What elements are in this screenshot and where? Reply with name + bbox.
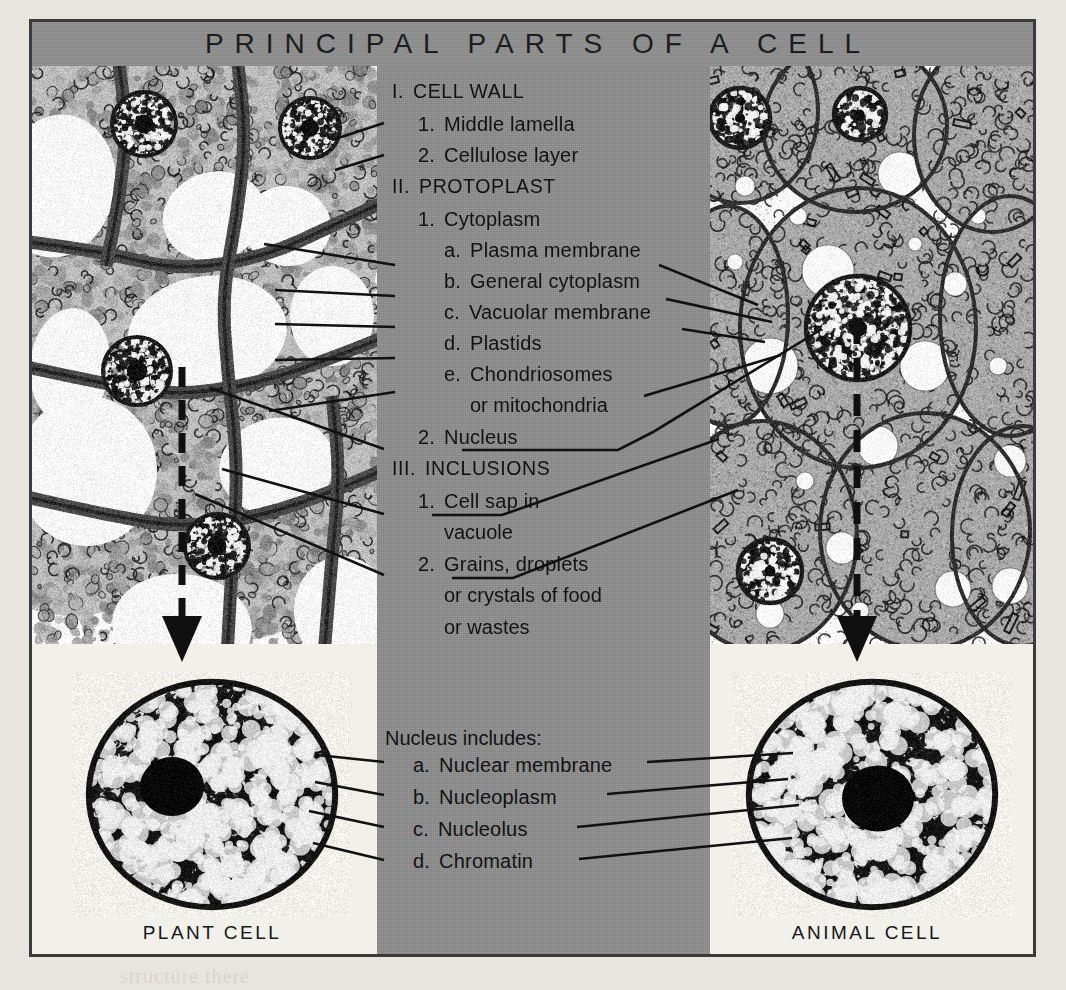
cell-diagram-figure: PRINCIPAL PARTS OF A CELL: [29, 19, 1036, 957]
nucleus-item-nucleolus: c.Nucleolus: [379, 818, 719, 850]
nucleus-item-chromatin: d.Chromatin: [379, 850, 719, 882]
outline-label: CELL WALL: [413, 80, 524, 102]
title-banner: PRINCIPAL PARTS OF A CELL: [32, 22, 1033, 66]
outline-item-inclusions: III.INCLUSIONS: [384, 457, 714, 488]
outline-item-mitochondria-cont: or mitochondria: [384, 394, 714, 426]
outline-label: or wastes: [444, 616, 530, 638]
outline-label: Nucleus: [444, 426, 518, 448]
outline-label: Vacuolar membrane: [469, 301, 651, 323]
outline-marker: a.: [444, 239, 461, 261]
nucleus-item-marker: a.: [413, 754, 430, 776]
nucleus-includes-heading: Nucleus includes:: [379, 727, 719, 750]
nucleus-item-marker: b.: [413, 786, 430, 808]
outline-label: Plasma membrane: [470, 239, 641, 261]
outline-label: or crystals of food: [444, 584, 602, 606]
outline-item-crystals-cont: or crystals of food: [384, 584, 714, 616]
plant-cell-caption: PLANT CELL: [92, 922, 332, 944]
nucleus-includes-list: Nucleus includes: a.Nuclear membraneb.Nu…: [379, 727, 719, 882]
outline-item-middle-lamella: 1.Middle lamella: [384, 113, 714, 144]
outline-marker: 1.: [418, 490, 435, 512]
nucleus-item-label: Nuclear membrane: [439, 754, 612, 776]
page-title: PRINCIPAL PARTS OF A CELL: [32, 28, 1033, 60]
outline-marker: I.: [392, 80, 404, 102]
figure-page: the lowest forms of in the microscope st…: [0, 0, 1066, 990]
outline-item-chondriosomes: e.Chondriosomes: [384, 363, 714, 394]
outline-marker: c.: [444, 301, 460, 323]
outline-item-nucleus: 2.Nucleus: [384, 426, 714, 457]
outline-label: vacuole: [444, 521, 513, 543]
outline-item-plastids: d.Plastids: [384, 332, 714, 363]
outline-label: General cytoplasm: [470, 270, 640, 292]
outline-label: Cell sap in: [444, 490, 540, 512]
animal-cell-micrograph: [710, 66, 1033, 644]
outline-marker: 2.: [418, 553, 435, 575]
outline-label: Cellulose layer: [444, 144, 578, 166]
nucleus-item-marker: c.: [413, 818, 429, 840]
outline-marker: II.: [392, 175, 410, 197]
outline-marker: b.: [444, 270, 461, 292]
outline-item-cell-wall: I.CELL WALL: [384, 80, 714, 111]
outline-marker: III.: [392, 457, 416, 479]
outline-item-wastes-cont: or wastes: [384, 616, 714, 648]
plant-nucleus-enlargement: [72, 672, 352, 917]
outline-label: Plastids: [470, 332, 542, 354]
animal-nucleus-enlargement: [732, 672, 1012, 917]
nucleus-item-marker: d.: [413, 850, 430, 872]
nucleus-item-label: Nucleoplasm: [439, 786, 557, 808]
outline-item-general-cytoplasm: b.General cytoplasm: [384, 270, 714, 301]
outline-label: Chondriosomes: [470, 363, 613, 385]
nucleus-item-label: Nucleolus: [438, 818, 528, 840]
outline-marker: 2.: [418, 144, 435, 166]
outline-marker: e.: [444, 363, 461, 385]
outline-item-cytoplasm: 1.Cytoplasm: [384, 208, 714, 239]
outline-item-vacuole-cont: vacuole: [384, 521, 714, 553]
outline-item-vacuolar-membrane: c.Vacuolar membrane: [384, 301, 714, 332]
animal-cell-caption: ANIMAL CELL: [747, 922, 987, 944]
outline-marker: 2.: [418, 426, 435, 448]
outline-item-cell-sap: 1.Cell sap in: [384, 490, 714, 521]
outline-label: Cytoplasm: [444, 208, 540, 230]
nucleus-item-nuclear-membrane: a.Nuclear membrane: [379, 754, 719, 786]
bleed-through-text: structure there: [120, 965, 250, 988]
outline-label: Middle lamella: [444, 113, 575, 135]
outline-item-protoplast: II.PROTOPLAST: [384, 175, 714, 206]
parts-outline-list: I.CELL WALL1.Middle lamella2.Cellulose l…: [384, 80, 714, 648]
plant-cell-micrograph: [32, 66, 377, 644]
outline-label: PROTOPLAST: [419, 175, 556, 197]
outline-item-plasma-membrane: a.Plasma membrane: [384, 239, 714, 270]
outline-marker: 1.: [418, 208, 435, 230]
outline-marker: d.: [444, 332, 461, 354]
outline-label: Grains, droplets: [444, 553, 588, 575]
nucleus-item-label: Chromatin: [439, 850, 533, 872]
outline-label: or mitochondria: [470, 394, 608, 416]
nucleus-item-nucleoplasm: b.Nucleoplasm: [379, 786, 719, 818]
outline-item-cellulose-layer: 2.Cellulose layer: [384, 144, 714, 175]
outline-item-grains-droplets: 2.Grains, droplets: [384, 553, 714, 584]
outline-marker: 1.: [418, 113, 435, 135]
outline-label: INCLUSIONS: [425, 457, 550, 479]
